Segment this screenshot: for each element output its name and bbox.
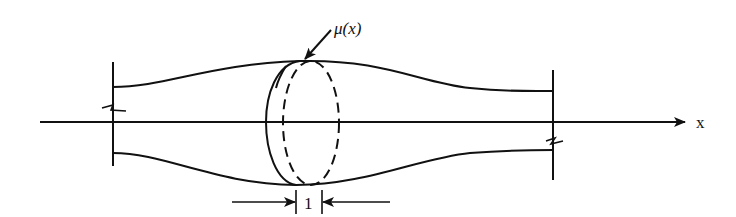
right-end-cut — [546, 70, 563, 180]
diagram-canvas: x μ(x) — [0, 0, 736, 217]
slice-width-label: 1 — [304, 194, 313, 213]
beam-diagram: x μ(x) — [0, 0, 736, 217]
density-pointer — [305, 30, 331, 59]
density-label: μ(x) — [333, 19, 362, 38]
break-symbol-icon — [546, 138, 563, 144]
beam-bottom-profile — [113, 150, 553, 185]
left-end-cut — [102, 62, 126, 166]
beam-top-profile — [113, 61, 553, 91]
x-axis-label: x — [696, 113, 705, 132]
